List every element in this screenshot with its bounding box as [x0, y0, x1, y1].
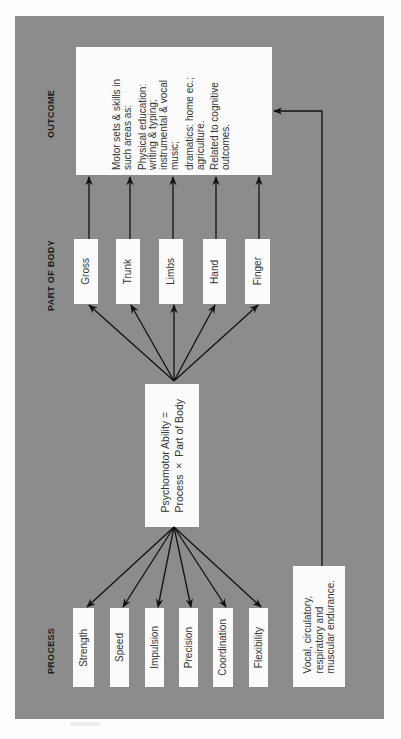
process-precision: Precision — [179, 608, 198, 687]
process-label: Precision — [183, 627, 195, 668]
process-label: Coordination — [217, 619, 229, 676]
scan-artifact — [70, 722, 100, 726]
endurance-text: Vocal, circulatory, respiratory and musc… — [302, 580, 337, 673]
outcome-line: instrumental & vocal — [158, 80, 169, 170]
process-coordination: Coordination — [213, 608, 233, 687]
body-part-label: Limbs — [165, 258, 177, 285]
process-label: Speed — [114, 633, 126, 662]
process-label: Flexibility — [253, 627, 265, 668]
endurance-line-3: muscular endurance. — [325, 580, 336, 673]
process-heading: PROCESS — [46, 622, 56, 674]
process-strength: Strength — [73, 608, 94, 687]
process-flexibility: Flexibility — [249, 608, 268, 687]
outcome-line: Physical education: — [137, 84, 148, 170]
body-part-limbs: Limbs — [159, 239, 183, 304]
body-part-label: Hand — [209, 260, 221, 284]
outcome-line: such areas as: — [122, 105, 133, 170]
outcome-line: outcomes. — [220, 124, 231, 170]
body-part-trunk: Trunk — [116, 239, 140, 304]
body-part-hand: Hand — [203, 239, 226, 304]
endurance-box: Vocal, circulatory, respiratory and musc… — [293, 566, 345, 687]
outcome-text: Motor sets & skills insuch areas as: Phy… — [112, 52, 236, 170]
center-line-2: Process × Part of Body — [173, 399, 185, 513]
process-impulsion: Impulsion — [145, 608, 164, 687]
outcome-box: Motor sets & skills insuch areas as: Phy… — [76, 47, 272, 175]
body-part-gross: Gross — [74, 239, 98, 304]
body-part-label: Trunk — [122, 259, 134, 284]
body-part-label: Gross — [80, 258, 92, 285]
outcome-line: music; — [169, 141, 180, 170]
outcome-line: writing & typing; — [147, 99, 158, 170]
body-part-label: Finger — [252, 257, 264, 285]
process-label: Strength — [78, 629, 90, 667]
endurance-line-1: Vocal, circulatory, — [302, 596, 313, 674]
endurance-line-2: respiratory and — [313, 606, 324, 673]
psychomotor-ability-box: Psychomotor Ability = Process × Part of … — [145, 384, 199, 527]
body-part-finger: Finger — [245, 239, 270, 304]
process-speed: Speed — [110, 608, 129, 687]
outcome-line: Motor sets & skills in — [111, 79, 122, 170]
outcome-heading: OUTCOME — [46, 86, 56, 138]
part-of-body-heading: PART OF BODY — [46, 235, 56, 311]
outcome-line: dramatics: home ec.; — [184, 77, 195, 170]
process-label: Impulsion — [149, 626, 161, 669]
psychomotor-ability-text: Psychomotor Ability = Process × Part of … — [158, 399, 186, 513]
outcome-line: Related to cognitive — [209, 82, 220, 170]
outcome-line: agriculture. — [195, 121, 206, 170]
center-line-1: Psychomotor Ability = — [159, 412, 171, 513]
